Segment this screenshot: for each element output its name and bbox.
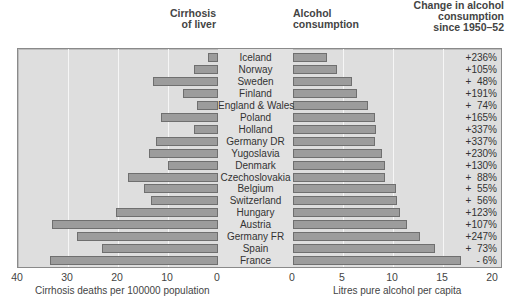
change-header-line3: since 1950–52 bbox=[390, 22, 504, 33]
right-axis-label: Litres pure alcohol per capita bbox=[333, 285, 461, 296]
left-axis-tick: 0 bbox=[207, 271, 227, 283]
alcohol-header: Alcohol consumption bbox=[293, 8, 393, 30]
chart-panel: Iceland+236%Norway+105%Sweden+ 48%Finlan… bbox=[17, 48, 502, 268]
cirrhosis-bar bbox=[128, 173, 218, 182]
cirrhosis-bar bbox=[77, 232, 218, 241]
alcohol-bar bbox=[293, 196, 397, 205]
alcohol-bar bbox=[293, 208, 400, 217]
alcohol-bar bbox=[293, 137, 375, 146]
alcohol-header-line2: consumption bbox=[293, 19, 393, 30]
change-value: +191% bbox=[437, 88, 497, 100]
change-header: Change in alcohol consumption since 1950… bbox=[390, 0, 504, 33]
country-label: Poland bbox=[218, 112, 293, 124]
alcohol-bar bbox=[293, 125, 376, 134]
country-label: Switzerland bbox=[218, 195, 293, 207]
cirrhosis-bar bbox=[197, 101, 218, 110]
change-value: +236% bbox=[437, 52, 497, 64]
cirrhosis-bar bbox=[116, 208, 218, 217]
alcohol-bar bbox=[293, 77, 352, 86]
country-label: Belgium bbox=[218, 183, 293, 195]
right-axis-tick: 20 bbox=[482, 271, 502, 283]
cirrhosis-bar bbox=[194, 125, 218, 134]
alcohol-bar bbox=[293, 173, 385, 182]
cirrhosis-bar bbox=[156, 137, 218, 146]
cirrhosis-bar bbox=[194, 65, 218, 74]
alcohol-bar bbox=[293, 65, 337, 74]
right-axis-tick: 15 bbox=[432, 271, 452, 283]
country-label: Spain bbox=[218, 243, 293, 255]
left-axis-tick: 40 bbox=[7, 271, 27, 283]
cirrhosis-bar bbox=[151, 196, 218, 205]
cirrhosis-bar bbox=[50, 256, 218, 265]
change-value: + 48% bbox=[437, 76, 497, 88]
right-axis-tick: 10 bbox=[382, 271, 402, 283]
left-gridline bbox=[68, 49, 69, 267]
change-value: +105% bbox=[437, 64, 497, 76]
cirrhosis-bar bbox=[153, 77, 218, 86]
cirrhosis-bar bbox=[102, 244, 218, 253]
alcohol-bar bbox=[293, 101, 368, 110]
change-value: + 56% bbox=[437, 195, 497, 207]
change-value: +247% bbox=[437, 231, 497, 243]
country-label: Denmark bbox=[218, 160, 293, 172]
cirrhosis-header: Cirrhosis of liver bbox=[150, 8, 216, 30]
cirrhosis-bar bbox=[208, 53, 218, 62]
left-axis-tick: 30 bbox=[57, 271, 77, 283]
change-value: +123% bbox=[437, 207, 497, 219]
country-label: France bbox=[218, 255, 293, 267]
cirrhosis-bar bbox=[52, 220, 218, 229]
change-value: +130% bbox=[437, 160, 497, 172]
cirrhosis-header-line2: of liver bbox=[150, 19, 216, 30]
alcohol-bar bbox=[293, 53, 327, 62]
change-value: - 6% bbox=[437, 255, 497, 267]
alcohol-bar bbox=[293, 149, 382, 158]
country-label: Sweden bbox=[218, 76, 293, 88]
alcohol-bar bbox=[293, 232, 420, 241]
cirrhosis-bar bbox=[144, 184, 218, 193]
change-value: +107% bbox=[437, 219, 497, 231]
cirrhosis-bar bbox=[183, 89, 218, 98]
alcohol-bar bbox=[293, 184, 396, 193]
change-value: +165% bbox=[437, 112, 497, 124]
right-axis-tick: 5 bbox=[332, 271, 352, 283]
alcohol-bar bbox=[293, 113, 375, 122]
change-value: +230% bbox=[437, 148, 497, 160]
change-value: + 88% bbox=[437, 172, 497, 184]
alcohol-bar bbox=[293, 161, 385, 170]
country-label: Finland bbox=[218, 88, 293, 100]
alcohol-bar bbox=[293, 220, 407, 229]
country-label: Germany DR bbox=[218, 136, 293, 148]
change-value: + 55% bbox=[437, 183, 497, 195]
alcohol-bar bbox=[293, 89, 357, 98]
change-value: + 73% bbox=[437, 243, 497, 255]
cirrhosis-bar bbox=[161, 113, 218, 122]
country-label: Germany FR bbox=[218, 231, 293, 243]
left-axis-tick: 20 bbox=[107, 271, 127, 283]
country-label: Czechoslovakia bbox=[218, 172, 293, 184]
country-label: Holland bbox=[218, 124, 293, 136]
right-axis-tick: 0 bbox=[282, 271, 302, 283]
cirrhosis-bar bbox=[149, 149, 218, 158]
alcohol-bar bbox=[293, 244, 435, 253]
country-label: Yugoslavia bbox=[218, 148, 293, 160]
country-label: Austria bbox=[218, 219, 293, 231]
change-value: +337% bbox=[437, 136, 497, 148]
country-label: Norway bbox=[218, 64, 293, 76]
left-axis-label: Cirrhosis deaths per 100000 population bbox=[35, 285, 210, 296]
country-label: England & Wales bbox=[218, 100, 293, 112]
left-axis-tick: 10 bbox=[157, 271, 177, 283]
change-value: + 74% bbox=[437, 100, 497, 112]
cirrhosis-bar bbox=[168, 161, 218, 170]
alcohol-bar bbox=[293, 256, 461, 265]
country-label: Hungary bbox=[218, 207, 293, 219]
change-value: +337% bbox=[437, 124, 497, 136]
country-label: Iceland bbox=[218, 52, 293, 64]
